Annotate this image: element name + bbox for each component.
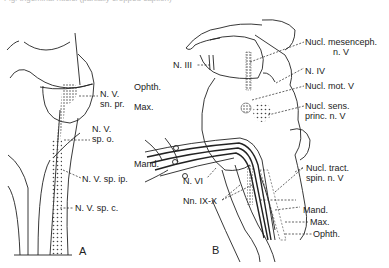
label-ophth-right: Ophth. bbox=[313, 229, 340, 239]
label-line: sn. pr. bbox=[100, 99, 125, 109]
panel-b-drawing bbox=[145, 20, 310, 262]
label-line: n. V bbox=[305, 47, 377, 57]
label-nucl-sens-princ: Nucl. sens. princ. n. V bbox=[305, 101, 350, 121]
label-line: Nucl. tract. bbox=[306, 163, 349, 173]
label-nn-ix-x: Nn. IX-X bbox=[183, 196, 217, 206]
label-n-vi: N. VI bbox=[183, 176, 203, 186]
label-n-v-sp-o: N. V. sp. o. bbox=[92, 124, 114, 144]
label-nucl-tract-spin: Nucl. tract. spin. n. V bbox=[306, 163, 349, 183]
panel-a-drawing bbox=[7, 33, 94, 255]
label-max-left: Max. bbox=[134, 102, 154, 112]
label-max-right: Max. bbox=[310, 217, 330, 227]
label-mand-right: Mand. bbox=[303, 205, 328, 215]
label-n-v-sn-pr: N. V. sn. pr. bbox=[100, 89, 125, 109]
label-nucl-mesenceph: Nucl. mesenceph. n. V bbox=[305, 37, 377, 57]
label-line: N. V. bbox=[100, 89, 125, 99]
label-mand-left: Mand. bbox=[134, 159, 159, 169]
label-line: Nucl. mesenceph. bbox=[305, 37, 377, 47]
label-nucl-mot-v: Nucl. mot. V bbox=[305, 81, 354, 91]
label-line: N. V. bbox=[92, 124, 114, 134]
label-line: princ. n. V bbox=[305, 111, 350, 121]
label-n-v-sp-c: N. V. sp. c. bbox=[75, 203, 118, 213]
label-ophth-left: Ophth. bbox=[134, 82, 161, 92]
panel-letter-b: B bbox=[212, 244, 219, 256]
panel-letter-a: A bbox=[79, 245, 86, 257]
label-n-iii: N. III bbox=[173, 60, 192, 70]
label-line: Nucl. sens. bbox=[305, 101, 350, 111]
label-line: spin. n. V bbox=[306, 173, 349, 183]
label-n-v-sp-ip: N. V. sp. ip. bbox=[82, 174, 128, 184]
label-line: sp. o. bbox=[92, 134, 114, 144]
label-n-iv: N. IV bbox=[305, 66, 325, 76]
